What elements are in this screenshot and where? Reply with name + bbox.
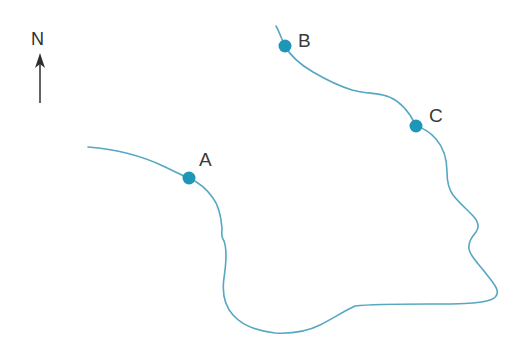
site-labels: A B C <box>199 30 443 170</box>
site-label-a: A <box>199 149 212 170</box>
boundary-lines <box>88 26 497 333</box>
site-dot-c[interactable] <box>410 120 423 133</box>
site-dot-b[interactable] <box>279 40 292 53</box>
site-label-c: C <box>429 105 443 126</box>
north-label: N <box>31 29 44 49</box>
western-boundary-path <box>88 126 497 333</box>
site-label-b: B <box>298 30 311 51</box>
site-markers <box>183 40 423 185</box>
northern-boundary-path <box>276 26 416 126</box>
map-figure: N A B C <box>0 0 513 358</box>
north-arrow: N <box>31 29 45 103</box>
map-canvas: N A B C <box>0 0 513 358</box>
site-dot-a[interactable] <box>183 172 196 185</box>
